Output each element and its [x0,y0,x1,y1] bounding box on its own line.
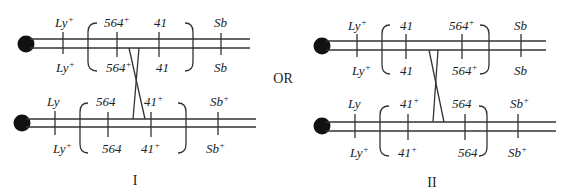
locus-label: Sb [514,18,528,33]
locus-label: Sb+ [206,140,225,156]
panel-label: II [427,175,437,190]
panel-2-top-chromosome: Ly+ 41 564+ Sb Ly+ 41 564+ Sb [314,17,547,78]
crossover-diagram: Ly+ 564+ 41 Sb Ly+ 564+ 41 Sb Ly 564 4 [0,0,566,194]
panel-1: Ly+ 564+ 41 Sb Ly+ 564+ 41 Sb Ly 564 4 [14,14,257,188]
locus-label: 41 [400,18,413,33]
locus-label: 41+ [398,144,417,160]
locus-label: 41+ [144,93,163,109]
locus-label: Sb+ [510,95,529,111]
locus-label: 564+ [452,62,478,78]
panel-1-top-chromosome: Ly+ 564+ 41 Sb Ly+ 564+ 41 Sb [18,14,251,75]
locus-label: 564 [102,141,122,156]
locus-label: Sb [214,15,228,30]
locus-label: 564+ [106,59,132,75]
locus-label: Ly+ [52,140,72,156]
crossover-strand [129,48,145,119]
locus-label: 564+ [104,14,130,30]
centromere-icon [18,36,35,53]
or-connector: OR [273,71,293,86]
locus-label: 564 [96,94,116,109]
centromere-icon [314,38,331,55]
locus-label: Sb [514,63,528,78]
crossover-strand [433,50,438,122]
panel-2: Ly+ 41 564+ Sb Ly+ 41 564+ Sb Ly 41+ 564… [314,17,557,190]
locus-label: 41 [156,60,169,75]
locus-label: 564 [458,145,478,160]
crossover-strand [133,48,139,119]
locus-label: Sb [214,60,228,75]
locus-label: Ly+ [349,144,369,160]
locus-label: 564+ [449,17,475,33]
locus-label: 41+ [141,140,160,156]
locus-label: Ly+ [55,59,75,75]
locus-label: Ly [46,94,60,109]
locus-label: 41+ [400,95,419,111]
locus-label: Ly [347,96,361,111]
centromere-icon [314,118,331,135]
crossover-strand [429,50,444,122]
locus-label: Sb+ [210,93,229,109]
locus-label: 41 [154,15,167,30]
locus-label: 564 [452,96,472,111]
locus-label: Ly+ [54,14,74,30]
panel-label: I [133,173,138,188]
inversion-bracket-right [178,103,186,153]
locus-label: 41 [400,63,413,78]
centromere-icon [14,115,31,132]
inversion-bracket-right [185,23,193,71]
locus-label: Sb+ [508,144,527,160]
locus-label: Ly+ [351,62,371,78]
inversion-bracket-left [88,23,97,71]
inversion-bracket-left [80,103,88,153]
locus-label: Ly+ [347,17,367,33]
